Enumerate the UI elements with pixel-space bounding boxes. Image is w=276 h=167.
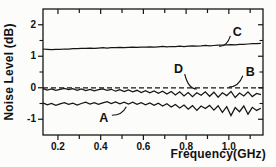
- x-tick-label: 0.6: [136, 141, 150, 152]
- leader-line-A: [112, 107, 126, 116]
- series-C-line: [43, 43, 261, 49]
- y-tick-label: 2: [30, 19, 36, 30]
- y-tick-label: -1: [27, 113, 36, 124]
- y-tick-label: 0: [30, 82, 36, 93]
- curve-label-D: D: [174, 62, 183, 76]
- x-tick-label: 0.4: [94, 141, 108, 152]
- y-axis-label: Noise Level (dB): [2, 23, 16, 120]
- series-A-line: [43, 102, 261, 116]
- curve-label-B: B: [246, 65, 255, 79]
- curve-label-C: C: [233, 25, 242, 39]
- plot-frame: [43, 9, 263, 135]
- x-axis-label: Frequency(GHz): [171, 147, 266, 161]
- curve-label-A: A: [99, 111, 108, 125]
- leader-line-B: [229, 76, 243, 87]
- x-tick-label: 0.2: [51, 141, 65, 152]
- chart-canvas: 0.20.40.60.81.0210-1ADBC: [0, 0, 276, 167]
- series-D-line: [43, 88, 261, 97]
- noise-level-vs-frequency-chart: 0.20.40.60.81.0210-1ADBC Noise Level (dB…: [0, 0, 276, 167]
- leader-line-D: [185, 74, 197, 89]
- y-tick-label: 1: [30, 50, 36, 61]
